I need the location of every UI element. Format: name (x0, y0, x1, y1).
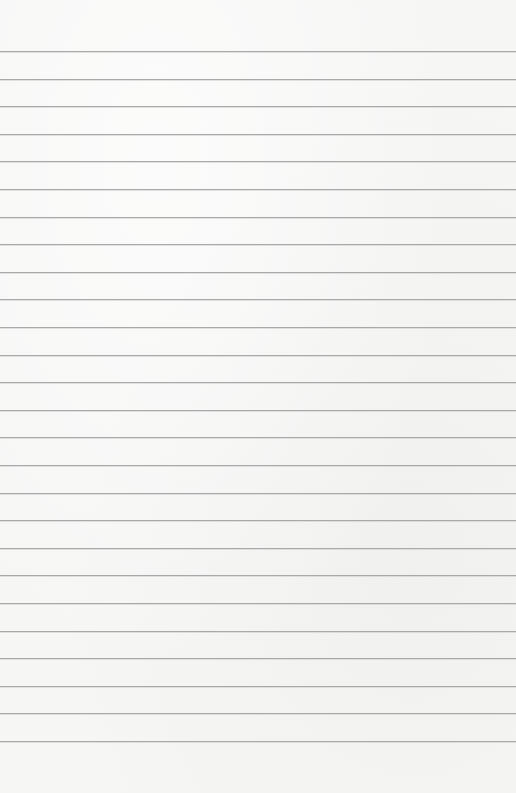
ruled-line (0, 134, 516, 135)
ruled-line (0, 106, 516, 107)
ruled-line (0, 658, 516, 659)
ruled-line (0, 299, 516, 300)
ruled-line (0, 410, 516, 411)
ruled-line (0, 217, 516, 218)
ruled-line (0, 382, 516, 383)
lined-paper-sheet (0, 0, 516, 793)
ruled-line (0, 189, 516, 190)
ruled-line (0, 272, 516, 273)
ruled-line (0, 741, 516, 742)
ruled-line (0, 575, 516, 576)
ruled-line (0, 465, 516, 466)
ruled-line (0, 631, 516, 632)
ruled-line (0, 437, 516, 438)
ruled-line (0, 686, 516, 687)
ruled-line (0, 355, 516, 356)
ruled-line (0, 161, 516, 162)
ruled-line (0, 548, 516, 549)
ruled-line (0, 493, 516, 494)
ruled-line (0, 79, 516, 80)
ruled-line (0, 520, 516, 521)
ruled-line (0, 244, 516, 245)
ruled-line (0, 51, 516, 52)
ruled-line (0, 327, 516, 328)
ruled-line (0, 713, 516, 714)
ruled-line (0, 603, 516, 604)
